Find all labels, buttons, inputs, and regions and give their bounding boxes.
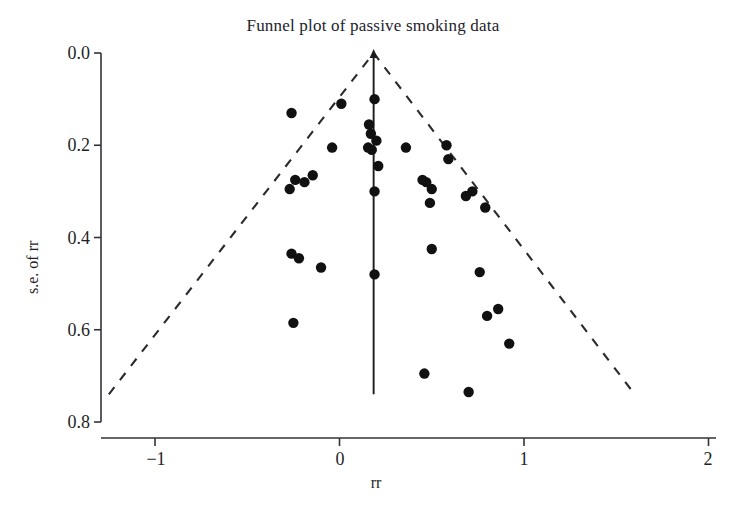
- data-point-group: [284, 94, 514, 397]
- data-point: [419, 368, 429, 378]
- data-point: [504, 338, 514, 348]
- funnel-left-bound: [109, 53, 374, 394]
- y-axis-ticks: [94, 53, 101, 422]
- y-axis-title: s.e. of rr: [24, 184, 42, 294]
- data-point: [373, 161, 383, 171]
- data-point: [308, 170, 318, 180]
- data-point: [316, 262, 326, 272]
- data-point: [369, 186, 379, 196]
- data-point: [461, 191, 471, 201]
- data-point: [443, 154, 453, 164]
- data-point: [482, 311, 492, 321]
- data-point: [493, 304, 503, 314]
- data-point: [336, 99, 346, 109]
- ytick-label-1: 0.2: [28, 135, 90, 156]
- xtick-label-0: −1: [146, 449, 165, 470]
- data-point: [427, 244, 437, 254]
- data-point: [369, 269, 379, 279]
- data-point: [367, 145, 377, 155]
- data-point: [290, 175, 300, 185]
- ytick-label-4: 0.8: [28, 412, 90, 433]
- xtick-label-3: 2: [704, 449, 713, 470]
- data-point: [288, 318, 298, 328]
- ytick-label-0: 0.0: [28, 43, 90, 64]
- funnel-plot-figure: Funnel plot of passive smoking data 0.0 …: [0, 0, 746, 510]
- data-point: [427, 184, 437, 194]
- data-point: [425, 198, 435, 208]
- data-point: [475, 267, 485, 277]
- data-point: [327, 142, 337, 152]
- xtick-label-2: 1: [520, 449, 529, 470]
- data-point: [401, 142, 411, 152]
- ytick-label-3: 0.6: [28, 320, 90, 341]
- data-point: [299, 177, 309, 187]
- data-point: [480, 202, 490, 212]
- data-point: [294, 253, 304, 263]
- xtick-label-1: 0: [336, 449, 345, 470]
- data-point: [463, 387, 473, 397]
- data-point: [284, 184, 294, 194]
- data-point: [364, 119, 374, 129]
- data-point: [369, 94, 379, 104]
- x-axis-ticks: [155, 438, 709, 446]
- plot-canvas: [0, 0, 746, 510]
- reference-line-arrowhead: [370, 49, 378, 58]
- data-point: [286, 108, 296, 118]
- data-point: [371, 135, 381, 145]
- x-axis-title: rr: [346, 474, 406, 492]
- data-point: [441, 140, 451, 150]
